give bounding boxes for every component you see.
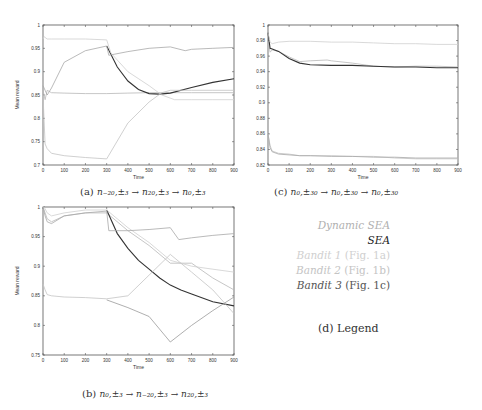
line-chart-c: 01002003004005006007008009000.820.840.86… [250, 0, 482, 180]
y-axis-label: Mean reward [14, 266, 20, 295]
y-tick-label: 0.8 [34, 116, 41, 121]
x-tick-label: 800 [209, 358, 217, 363]
x-axis-label: Time [133, 174, 144, 180]
caption-b-label: (b) [82, 388, 96, 399]
y-tick-label: 0.86 [256, 131, 265, 136]
legend-item-dynamic-sea: Dynamic SEA [290, 218, 390, 233]
legend-item-bandit-3: Bandit 3 (Fig. 1c) [290, 278, 390, 293]
line-chart-a: 01002003004005006007008009000.70.750.80.… [0, 0, 250, 180]
plot-frame [43, 25, 234, 165]
y-tick-label: 0.95 [31, 46, 40, 51]
x-tick-label: 300 [103, 168, 111, 173]
caption-a: (a) n₋₂₀,±₃ → n₂₀,±₃ → n₀,±₃ [80, 186, 206, 197]
series-line [43, 207, 234, 290]
x-tick-label: 800 [209, 168, 217, 173]
x-tick-label: 200 [82, 358, 90, 363]
caption-a-math: n₋₂₀,±₃ → n₂₀,±₃ → n₀,±₃ [97, 187, 206, 197]
line-chart-b: 01002003004005006007008009000.750.80.850… [0, 205, 250, 385]
x-tick-label: 800 [433, 168, 441, 173]
x-tick-label: 100 [60, 168, 68, 173]
x-tick-label: 100 [60, 358, 68, 363]
x-tick-label: 200 [82, 168, 90, 173]
y-tick-label: 0.9 [34, 264, 41, 269]
plot-frame [268, 25, 458, 165]
legend-item-bandit-2: Bandit 2 (Fig. 1b) [290, 263, 390, 278]
x-tick-label: 300 [103, 358, 111, 363]
x-tick-label: 600 [167, 358, 175, 363]
series-line [43, 254, 234, 313]
chart-panel-a: 01002003004005006007008009000.70.750.80.… [0, 0, 250, 180]
caption-a-label: (a) [80, 186, 94, 197]
plot-frame [43, 207, 234, 355]
y-tick-label: 0.75 [31, 353, 40, 358]
series-line [268, 41, 458, 67]
y-tick-label: 0.95 [31, 234, 40, 239]
series-line [107, 210, 234, 306]
caption-d-label: (d) Legend [318, 322, 379, 335]
y-tick-label: 0.94 [256, 69, 265, 74]
series-line [43, 46, 234, 95]
y-tick-label: 0.85 [31, 93, 40, 98]
x-axis-label: Time [133, 364, 144, 370]
y-tick-label: 0.84 [256, 147, 265, 152]
chart-panel-c: 01002003004005006007008009000.820.840.86… [250, 0, 482, 180]
x-tick-label: 400 [124, 358, 132, 363]
x-tick-label: 400 [349, 168, 357, 173]
series-line [268, 33, 458, 68]
y-tick-label: 0.88 [256, 116, 265, 121]
x-tick-label: 700 [412, 168, 420, 173]
x-tick-label: 200 [306, 168, 314, 173]
legend: Dynamic SEA SEA Bandit 1 (Fig. 1a) Bandi… [290, 218, 390, 293]
series-line [107, 297, 234, 342]
caption-c-math: n₀,±₃₀ → n₀,±₃₀ → n₀,±₃₀ [291, 187, 399, 197]
y-tick-label: 1 [37, 23, 40, 28]
caption-d: (d) Legend [318, 322, 379, 335]
x-tick-label: 300 [328, 168, 336, 173]
y-tick-label: 0.75 [31, 139, 40, 144]
x-tick-label: 700 [188, 168, 196, 173]
y-tick-label: 0.9 [34, 69, 41, 74]
x-axis-label: Time [358, 174, 369, 180]
x-tick-label: 700 [188, 358, 196, 363]
x-tick-label: 500 [145, 168, 153, 173]
y-tick-label: 0.7 [34, 163, 41, 168]
x-tick-label: 600 [391, 168, 399, 173]
x-tick-label: 100 [285, 168, 293, 173]
y-tick-label: 1 [37, 205, 40, 210]
y-tick-label: 0.85 [31, 293, 40, 298]
series-line [268, 33, 458, 45]
x-tick-label: 0 [42, 168, 45, 173]
y-axis-label: Mean reward [14, 80, 20, 109]
y-tick-label: 1 [262, 23, 265, 28]
x-tick-label: 0 [267, 168, 270, 173]
series-line [268, 134, 458, 158]
y-tick-label: 0.96 [256, 54, 265, 59]
caption-c-label: (c) [274, 186, 287, 197]
x-tick-label: 900 [230, 358, 238, 363]
series-line [43, 90, 234, 99]
y-tick-label: 0.92 [256, 85, 265, 90]
x-tick-label: 600 [167, 168, 175, 173]
x-tick-label: 400 [124, 168, 132, 173]
legend-item-sea: SEA [290, 233, 390, 248]
caption-b-math: n₀,±₃ → n₋₂₀,±₃ → n₂₀,±₃ [99, 389, 208, 399]
series-line [43, 207, 234, 272]
legend-item-bandit-1: Bandit 1 (Fig. 1a) [290, 248, 390, 263]
x-tick-label: 500 [145, 358, 153, 363]
y-tick-label: 0.8 [34, 323, 41, 328]
series-line [43, 90, 234, 159]
series-line [107, 46, 234, 94]
y-tick-label: 0.9 [259, 100, 266, 105]
x-tick-label: 900 [454, 168, 462, 173]
y-tick-label: 0.98 [256, 38, 265, 43]
chart-panel-b: 01002003004005006007008009000.750.80.850… [0, 205, 250, 385]
x-tick-label: 500 [370, 168, 378, 173]
y-tick-label: 0.82 [256, 163, 265, 168]
x-tick-label: 900 [230, 168, 238, 173]
caption-b: (b) n₀,±₃ → n₋₂₀,±₃ → n₂₀,±₃ [82, 388, 208, 399]
caption-c: (c) n₀,±₃₀ → n₀,±₃₀ → n₀,±₃₀ [274, 186, 398, 197]
x-tick-label: 0 [42, 358, 45, 363]
